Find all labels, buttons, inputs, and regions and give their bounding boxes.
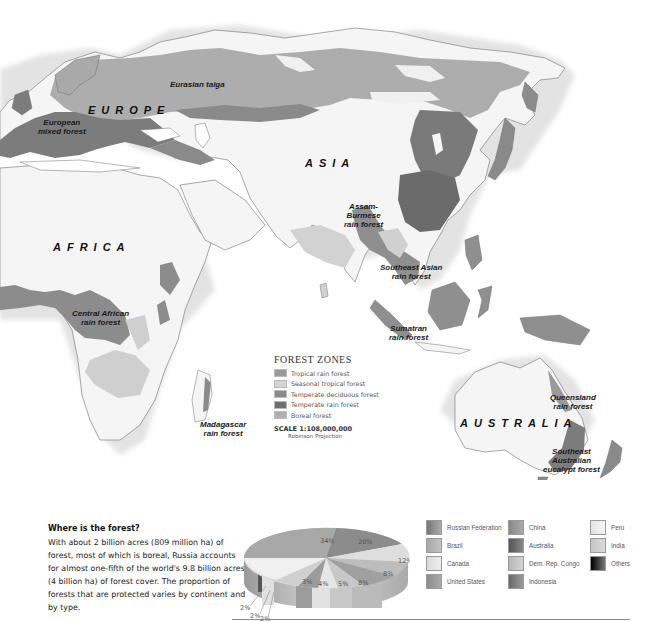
swatch-china: [508, 520, 524, 535]
swatch-australia: [508, 538, 524, 553]
label-queensland-rain-forest: Queensland rain forest: [550, 393, 596, 411]
country-legend-item: Dem. Rep. Congo: [508, 556, 590, 570]
country-label: Dem. Rep. Congo: [529, 560, 579, 567]
country-legend-item: Australia: [508, 538, 590, 552]
swatch-canada: [426, 556, 442, 571]
zone-label: Tropical rain forest: [291, 370, 349, 377]
label-assam-burmese-rain-forest: Assam- Burmese rain forest: [344, 202, 383, 229]
country-label: United States: [447, 578, 485, 585]
forest-zones-legend: FOREST ZONES Tropical rain forest Season…: [274, 354, 424, 439]
zone-swatch-boreal: [274, 411, 287, 419]
country-label: Canada: [447, 560, 469, 567]
country-label: India: [611, 542, 625, 549]
zone-legend-item: Tropical rain forest: [274, 368, 424, 379]
country-label: Australia: [529, 542, 554, 549]
country-label: China: [529, 524, 545, 531]
country-label: Others: [611, 560, 630, 567]
swatch-india: [590, 538, 606, 553]
zone-swatch-temperate-rain: [274, 401, 287, 409]
forest-zones-title: FOREST ZONES: [274, 354, 424, 365]
pie-label-3: 3%: [302, 578, 312, 586]
swatch-others: [590, 556, 606, 571]
country-legend-item: China: [508, 520, 590, 534]
label-se-australian-eucalypt-forest: Southeast Australian eucalypt forest: [543, 447, 600, 474]
zone-legend-item: Seasonal tropical forest: [274, 379, 424, 390]
zone-swatch-seasonal-tropical: [274, 380, 287, 388]
pie-label-8b: 8%: [358, 579, 368, 587]
label-southeast-asian-rain-forest: Southeast Asian rain forest: [380, 263, 442, 281]
pie-label-8a: 8%: [383, 570, 393, 578]
zone-label: Temperate deciduous forest: [291, 391, 379, 398]
footer-divider: [232, 619, 630, 620]
label-central-african-rain-forest: Central African rain forest: [72, 309, 129, 327]
country-label: Peru: [611, 524, 624, 531]
zone-swatch-tropical-rain: [274, 369, 287, 377]
zone-label: Boreal forest: [291, 412, 331, 419]
pie-label-20: 20%: [358, 538, 372, 546]
country-label: Indonesia: [529, 578, 556, 585]
map-scale: SCALE 1:108,000,000: [274, 425, 424, 433]
swatch-peru: [590, 520, 606, 535]
label-eurasian-taiga: Eurasian taiga: [170, 80, 225, 89]
zone-legend-item: Temperate rain forest: [274, 400, 424, 411]
zone-legend-item: Temperate deciduous forest: [274, 389, 424, 400]
info-heading: Where is the forest?: [48, 524, 248, 533]
zone-label: Temperate rain forest: [291, 401, 359, 408]
country-legend-item: Indonesia: [508, 574, 590, 588]
zone-legend-item: Boreal forest: [274, 410, 424, 421]
pie-label-34: 34%: [320, 537, 334, 545]
pie-label-5: 5%: [338, 580, 348, 588]
pie-label-12: 12%: [398, 557, 410, 565]
country-legend-item: Brazil: [426, 538, 508, 552]
zone-swatch-temperate-deciduous: [274, 390, 287, 398]
country-legend-item: Russian Federation: [426, 520, 508, 534]
zone-label: Seasonal tropical forest: [291, 380, 365, 387]
swatch-russia: [426, 520, 442, 535]
swatch-indonesia: [508, 574, 524, 589]
continent-label-australia: AUSTRALIA: [460, 417, 578, 429]
continent-label-europe: EUROPE: [88, 104, 170, 116]
continent-label-africa: AFRICA: [53, 241, 131, 253]
label-madagascar-rain-forest: Madagascar rain forest: [200, 420, 246, 438]
country-legend: Russian Federation China Peru Brazil Aus…: [426, 520, 646, 588]
borneo-island: [428, 282, 470, 330]
info-text-block: Where is the forest? With about 2 billio…: [48, 524, 248, 614]
label-sumatran-rain-forest: Sumatran rain forest: [389, 324, 428, 342]
pie-label-2a: 2%: [240, 604, 250, 612]
swatch-drc: [508, 556, 524, 571]
forest-share-pie-chart: 34% 20% 12% 8% 8% 5% 4% 3% 2% 2% 2%: [240, 510, 410, 622]
country-legend-item: Canada: [426, 556, 508, 570]
pie-label-4: 4%: [318, 580, 328, 588]
country-label: Russian Federation: [447, 524, 502, 531]
new-zealand-island: [600, 440, 622, 478]
country-label: Brazil: [447, 542, 463, 549]
label-european-mixed-forest: European mixed forest: [38, 118, 86, 136]
swatch-brazil: [426, 538, 442, 553]
country-legend-item: United States: [426, 574, 508, 588]
country-legend-item: India: [590, 538, 646, 552]
swatch-united-states: [426, 574, 442, 589]
country-legend-item: Others: [590, 556, 646, 570]
info-body: With about 2 billion acres (809 million …: [48, 536, 248, 614]
map-projection: Robinson Projection: [288, 433, 424, 439]
country-legend-item: Peru: [590, 520, 646, 534]
continent-label-asia: ASIA: [305, 157, 355, 169]
